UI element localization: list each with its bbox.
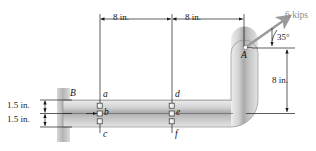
force-angle-label: 35° — [277, 33, 290, 42]
point-label-a: a — [103, 90, 108, 100]
point-label-b: b — [104, 108, 109, 118]
point-label-A: A — [241, 51, 247, 61]
section-markers-abc — [97, 103, 102, 124]
top-dimension-group — [100, 14, 244, 103]
point-label-c: c — [103, 130, 107, 140]
point-label-B: B — [70, 89, 76, 99]
section-markers-def — [169, 103, 174, 124]
force-magnitude-label: 6 kips — [285, 11, 308, 21]
point-label-f: f — [175, 130, 178, 140]
beam-body — [63, 27, 258, 128]
dimension-label-right-vertical: 8 in. — [272, 76, 288, 85]
diagram-svg — [0, 0, 316, 151]
point-label-e: e — [176, 108, 180, 118]
point-label-d: d — [175, 90, 180, 100]
figure-canvas: 8 in. 8 in. 8 in. 1.5 in. 1.5 in. 6 kips… — [0, 0, 316, 151]
dimension-label-left-upper: 1.5 in. — [7, 101, 30, 110]
dimension-label-top-right: 8 in. — [185, 13, 201, 22]
dimension-label-top-left: 8 in. — [113, 13, 129, 22]
dimension-label-left-lower: 1.5 in. — [7, 115, 30, 124]
